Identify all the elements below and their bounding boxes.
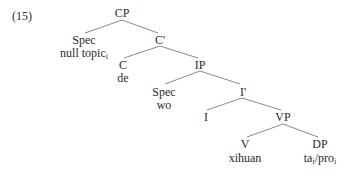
branch-ip-ibar	[200, 71, 240, 84]
branch-ip-spec	[165, 71, 200, 84]
branch-cbar-ip	[160, 46, 198, 58]
branch-cp-cbar	[122, 20, 158, 33]
branch-vp-dp	[283, 124, 318, 137]
word-ta-pro: tai/proi	[304, 152, 336, 165]
branch-ibar-vp	[242, 98, 281, 110]
node-ip: IP	[195, 59, 206, 72]
node-dp: DP	[312, 138, 327, 151]
node-vp: VP	[275, 111, 290, 124]
branch-vp-v	[247, 124, 283, 137]
word-de: de	[117, 72, 128, 85]
branch-cbar-c	[124, 46, 160, 58]
node-i: I	[204, 111, 208, 124]
node-v: V	[241, 138, 250, 151]
node-c-bar: C'	[155, 34, 165, 47]
word-xihuan: xihuan	[229, 152, 262, 165]
node-cp: CP	[115, 7, 130, 20]
word-null-topic: null topici	[60, 47, 108, 60]
node-i-bar: I'	[240, 86, 246, 99]
example-number: (15)	[12, 9, 32, 24]
branch-cp-spec	[85, 20, 122, 33]
branch-ibar-i	[207, 98, 242, 110]
word-wo: wo	[157, 99, 172, 112]
